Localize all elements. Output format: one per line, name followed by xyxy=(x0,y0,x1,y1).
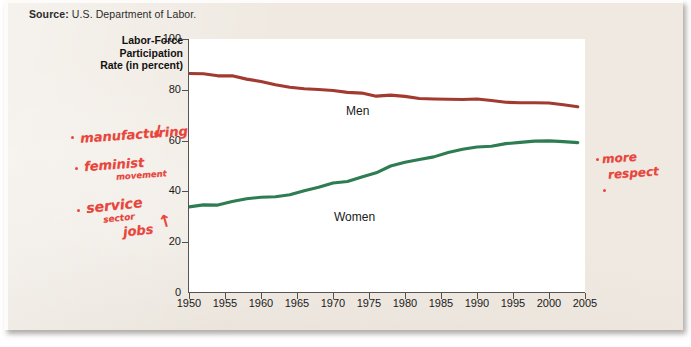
annotation-bullet-extra xyxy=(603,189,606,192)
series-label-women: Women xyxy=(334,210,375,224)
y-tick-mark xyxy=(182,90,189,91)
annotation-service-jobs: jobs xyxy=(122,221,154,239)
source-label: Source: xyxy=(29,8,69,20)
textbook-page-card: Source: U.S. Department of Labor. Labor-… xyxy=(4,0,683,330)
y-tick-mark xyxy=(182,242,189,243)
annotation-bullet-manufacturing xyxy=(71,136,74,139)
y-tick-mark xyxy=(182,39,189,40)
annotation-service-sector: sector xyxy=(103,211,136,224)
annotation-up-arrow-icon: ↑ xyxy=(156,209,175,232)
annotation-more: more xyxy=(602,150,638,166)
y-axis-line xyxy=(188,39,189,293)
annotation-bullet-more-respect xyxy=(596,158,599,161)
men-series-line xyxy=(189,74,578,107)
x-axis-line xyxy=(188,292,585,293)
annotation-bullet-feminist xyxy=(75,167,78,170)
y-tick-label: 40 xyxy=(147,184,181,196)
source-text: U.S. Department of Labor. xyxy=(72,8,196,20)
annotation-respect: respect xyxy=(608,164,660,182)
annotation-feminist-movement: movement xyxy=(116,168,167,182)
y-tick-label: 20 xyxy=(147,235,181,247)
x-tick-label: 2005 xyxy=(563,297,607,309)
y-axis-title-line2: Participation xyxy=(68,47,183,60)
y-tick-label: 100 xyxy=(147,32,181,44)
line-chart-svg xyxy=(189,39,585,293)
annotation-bullet-service xyxy=(77,209,80,212)
chart-plot-area xyxy=(189,39,585,293)
y-axis-title-line3: Rate (in percent) xyxy=(68,59,183,72)
y-tick-mark xyxy=(182,141,189,142)
source-credit: Source: U.S. Department of Labor. xyxy=(29,8,196,20)
series-label-men: Men xyxy=(346,104,369,118)
y-tick-mark xyxy=(182,191,189,192)
women-series-line xyxy=(189,141,578,207)
y-tick-label: 80 xyxy=(147,83,181,95)
